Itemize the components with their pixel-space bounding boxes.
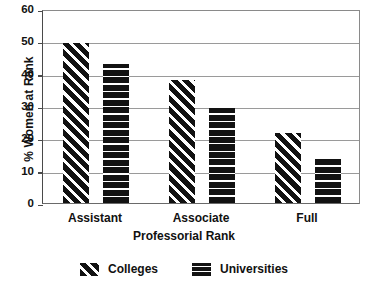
bar-universities-associate [209, 108, 235, 203]
bar-colleges-assistant [63, 43, 89, 203]
y-axis-tick-label: 10 [12, 166, 34, 177]
legend-item-universities: Universities [192, 262, 288, 276]
y-axis-tick-label: 0 [12, 198, 34, 209]
y-axis-tick-label: 40 [12, 69, 34, 80]
y-axis-tick-mark [38, 11, 43, 13]
legend-swatch-colleges [80, 263, 99, 276]
y-axis-tick-mark [38, 108, 43, 110]
bar-universities-assistant [103, 64, 129, 203]
y-axis-tick-label: 60 [12, 4, 34, 15]
y-axis-tick-label: 20 [12, 133, 34, 144]
y-axis-tick-mark [38, 75, 43, 77]
legend-label: Universities [220, 262, 288, 276]
bar-universities-full [315, 158, 341, 203]
y-axis-tick-mark [38, 172, 43, 174]
x-axis-title: Professorial Rank [0, 229, 368, 243]
gridline [43, 108, 359, 109]
x-axis-tick-label: Associate [173, 211, 230, 225]
y-axis-tick-mark [38, 43, 43, 45]
plot-area [42, 10, 360, 204]
y-axis-tick-mark [38, 205, 43, 207]
gridline [43, 43, 359, 44]
y-axis-tick-label: 30 [12, 101, 34, 112]
x-axis-tick-label: Assistant [68, 211, 122, 225]
y-axis-tick-mark [38, 140, 43, 142]
chart-legend: CollegesUniversities [0, 262, 368, 276]
bar-colleges-full [275, 133, 301, 203]
legend-swatch-universities [192, 263, 211, 276]
bar-chart: % Women at Rank 0102030405060 AssistantA… [0, 0, 368, 297]
legend-label: Colleges [108, 262, 158, 276]
gridline [43, 140, 359, 141]
bar-colleges-associate [169, 80, 195, 203]
legend-item-colleges: Colleges [80, 262, 158, 276]
gridline [43, 173, 359, 174]
y-axis-tick-label: 50 [12, 36, 34, 47]
gridline [43, 76, 359, 77]
x-axis-tick-label: Full [296, 211, 317, 225]
